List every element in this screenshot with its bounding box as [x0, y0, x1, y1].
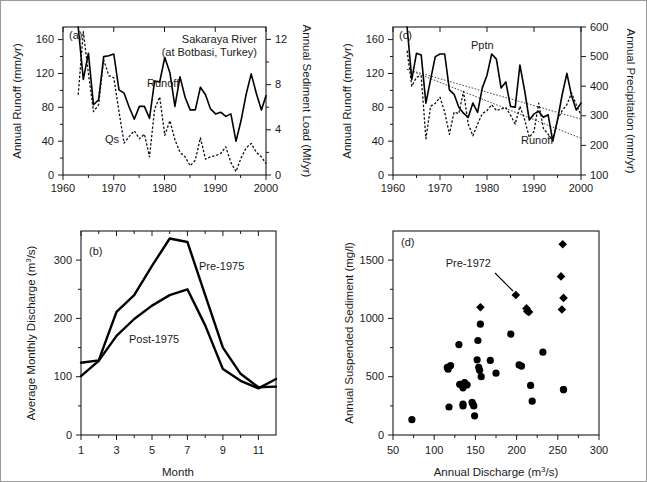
figure-container: 0 40 80 120 160 0 4 8 12: [0, 0, 647, 482]
panel-c-xtick-2000: 2000: [569, 182, 593, 194]
panel-a-xtick-1960: 1960: [51, 182, 75, 194]
panel-c-ytick-r-300: 300: [590, 109, 608, 121]
panel-b-ytick-100: 100: [54, 370, 72, 382]
panel-b-xtick-1: 1: [78, 444, 84, 456]
panel-a-left-axis: 0 40 80 120 160: [36, 33, 63, 180]
panel-a-ylabel-right: Annual Sediment Load (Mt/yr): [301, 25, 313, 178]
panel-d-ytick-0: 0: [378, 429, 384, 441]
panel-c-runoff-trend: [407, 69, 581, 138]
panel-d-xtick-100: 100: [425, 444, 443, 456]
panel-b-pre1975-line: [81, 239, 276, 388]
panel-a-right-axis: 0 4 8 12: [266, 33, 287, 181]
panel-d-annotation-leader: [495, 273, 513, 291]
panel-c-ytick-0: 0: [378, 169, 384, 181]
panel-c-ytick-160: 160: [366, 33, 384, 45]
panel-a-label: (a): [69, 29, 82, 41]
panel-b-post1975-label: Post-1975: [129, 333, 179, 345]
panel-b-ytick-0: 0: [66, 429, 72, 441]
panel-c-ytick-r-500: 500: [590, 50, 608, 62]
panel-a-xtick-1980: 1980: [152, 182, 176, 194]
panel-c-label: (c): [399, 29, 412, 41]
panel-a-title-line1: Sakaraya River: [182, 33, 258, 45]
panel-c-pptn-trend: [407, 69, 581, 119]
panel-c-runoff-label: Runoff: [521, 134, 554, 146]
panel-a-xtick-1990: 1990: [203, 182, 227, 194]
panel-c-ytick-r-100: 100: [590, 169, 608, 181]
panel-c-ytick-r-400: 400: [590, 80, 608, 92]
panel-b-label: (b): [89, 245, 102, 257]
panel-d-xtick-150: 150: [466, 444, 484, 456]
panel-a: 0 40 80 120 160 0 4 8 12: [1, 7, 331, 203]
panel-b-xlabel: Month: [162, 466, 194, 478]
panel-c-ytick-40: 40: [372, 135, 384, 147]
panel-a-ytick-0: 0: [48, 169, 54, 181]
panel-c-pptn-label: Pptn: [471, 39, 494, 51]
panel-c-ylabel-right: Annual Precipitation (mm/yr): [625, 28, 637, 173]
panel-d-x-axis: 50 100 150 200 250 300: [387, 435, 608, 456]
panel-c-right-axis: 100 200 300 400 500 600: [581, 21, 608, 181]
panel-a-ytick-r-12: 12: [275, 33, 287, 45]
panel-b-xtick-11: 11: [253, 444, 264, 456]
panel-b-xtick-9: 9: [220, 444, 226, 456]
panel-b-ylabel: Average Monthly Discharge (m3/s): [24, 245, 37, 420]
panel-d-xtick-300: 300: [590, 444, 608, 456]
panel-c-xtick-1970: 1970: [428, 182, 452, 194]
panel-b-y-axis: 0 100 200 300: [54, 254, 81, 441]
panel-d-y-axis: 0 500 1000 1500: [360, 254, 393, 441]
panel-a-ytick-120: 120: [36, 67, 54, 79]
panel-a-qs-label: Qs: [105, 133, 120, 145]
panel-c-runoff-line: [407, 27, 581, 141]
panel-a-ytick-80: 80: [42, 101, 54, 113]
panel-c: 0 40 80 120 160 100 200 300 400 500 600: [331, 7, 647, 203]
panel-a-xtick-2000: 2000: [254, 182, 278, 194]
panel-d-annotation: Pre-1972: [446, 257, 491, 269]
panel-b-ytick-300: 300: [54, 254, 72, 266]
panel-a-ytick-40: 40: [42, 135, 54, 147]
panel-b: 0 100 200 300: [1, 213, 331, 481]
panel-d-label: (d): [401, 236, 414, 248]
panel-d-circle-markers: [408, 321, 567, 424]
panel-d-ytick-500: 500: [366, 370, 384, 382]
panel-b-xtick-7: 7: [184, 444, 190, 456]
panel-a-ytick-160: 160: [36, 33, 54, 45]
panel-b-ytick-200: 200: [54, 312, 72, 324]
panel-d-xtick-200: 200: [507, 444, 525, 456]
panel-a-ylabel-left: Annual Runoff (mm/yr): [11, 43, 23, 159]
panel-d-plot-frame: [393, 231, 599, 435]
panel-c-xtick-1990: 1990: [522, 182, 546, 194]
panel-c-ytick-120: 120: [366, 67, 384, 79]
panel-a-ytick-r-0: 0: [275, 169, 281, 181]
panel-c-ytick-r-200: 200: [590, 139, 608, 151]
panel-d-ytick-1000: 1000: [360, 312, 384, 324]
panel-d-xtick-250: 250: [549, 444, 567, 456]
panel-b-xtick-3: 3: [113, 444, 119, 456]
panel-a-xtick-1970: 1970: [102, 182, 126, 194]
panel-b-xtick-5: 5: [149, 444, 155, 456]
panel-c-ytick-r-600: 600: [590, 21, 608, 33]
panel-d-ylabel: Annual Suspended Sediment (mg/l): [343, 242, 355, 424]
panel-c-xtick-1980: 1980: [475, 182, 499, 194]
panel-d: 0 500 1000 1500 50 100 150 200: [331, 213, 647, 481]
panel-c-ylabel-left: Annual Runoff (mm/yr): [341, 43, 353, 159]
panel-d-xtick-50: 50: [387, 444, 399, 456]
panel-c-xtick-1960: 1960: [381, 182, 405, 194]
panel-b-pre1975-label: Pre-1975: [199, 260, 244, 272]
panel-c-ytick-80: 80: [372, 101, 384, 113]
panel-d-ytick-1500: 1500: [360, 254, 384, 266]
panel-a-title-line2: (at Botbasi, Turkey): [162, 46, 257, 58]
panel-a-ytick-r-8: 8: [275, 78, 281, 90]
panel-d-xlabel: Annual Discharge (m3/s): [434, 465, 559, 478]
panel-a-runoff-label: Runoff: [147, 77, 180, 89]
panel-c-left-axis: 0 40 80 120 160: [366, 33, 393, 180]
panel-a-ytick-r-4: 4: [275, 123, 281, 135]
